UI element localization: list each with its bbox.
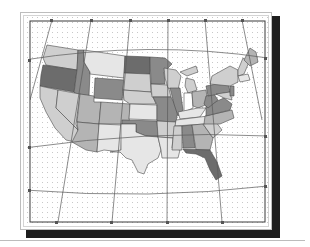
us-choropleth-map [0, 0, 310, 247]
state-wy [94, 78, 124, 100]
state-nd [124, 56, 150, 74]
state-nj [230, 86, 234, 96]
state-ne [123, 90, 156, 104]
state-ms [172, 126, 182, 150]
state-sd [123, 73, 151, 92]
state-ks [129, 104, 157, 120]
